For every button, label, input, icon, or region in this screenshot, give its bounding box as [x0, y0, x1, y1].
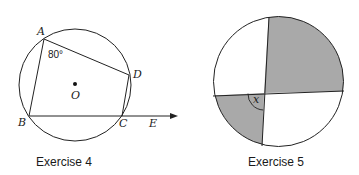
- label-b: B: [17, 116, 26, 129]
- caption-exercise-4: Exercise 4: [36, 155, 92, 169]
- shaded-region-top-right: [264, 10, 359, 93]
- caption-exercise-5: Exercise 5: [248, 155, 304, 169]
- arrow-head-icon: [170, 113, 178, 119]
- label-a: A: [36, 25, 45, 38]
- exercise-5-diagram: x Exercise 5: [200, 10, 359, 169]
- center-dot: [73, 82, 77, 86]
- quadrilateral-abcd: [29, 39, 129, 116]
- label-e: E: [148, 117, 157, 130]
- label-o: O: [71, 89, 80, 102]
- angle-label-x: x: [253, 93, 260, 106]
- angle-label-80: 80°: [48, 49, 63, 60]
- label-d: D: [132, 68, 142, 81]
- exercise-4-diagram: A 80° O D B C E Exercise 4: [17, 25, 178, 169]
- figure-canvas: A 80° O D B C E Exercise 4 x Exercise 5: [0, 0, 359, 175]
- label-c: C: [119, 117, 128, 130]
